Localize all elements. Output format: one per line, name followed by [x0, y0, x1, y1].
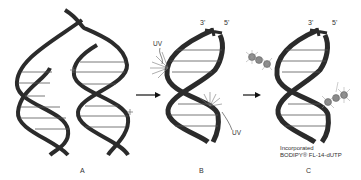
- caption-c-line2: BODIPY® FL-14-dUTP: [280, 152, 342, 159]
- helix-a-right: [65, 10, 133, 155]
- uv-label-top: UV: [153, 41, 162, 48]
- helix-c: [277, 28, 329, 142]
- arrow-b-to-c: [243, 92, 261, 98]
- panel-label-c: C: [306, 167, 311, 174]
- arrow-a-to-b: [136, 92, 161, 98]
- uv-label-bottom: UV: [232, 130, 241, 137]
- five-prime-label-b: 5': [224, 19, 229, 26]
- panel-label-b: B: [199, 167, 204, 174]
- helix-b: [150, 28, 232, 142]
- caption-c-line1: Incorporated: [280, 145, 314, 152]
- three-prime-label-b: 3': [200, 19, 205, 26]
- five-prime-label-c: 5': [332, 19, 337, 26]
- three-prime-label-c: 3': [308, 19, 313, 26]
- fluorescent-nucleotide-cluster-bottom: [322, 82, 350, 108]
- panel-label-a: A: [80, 167, 85, 174]
- helix-a-left: [17, 20, 82, 155]
- fluorescent-nucleotide-cluster-top: [246, 50, 272, 70]
